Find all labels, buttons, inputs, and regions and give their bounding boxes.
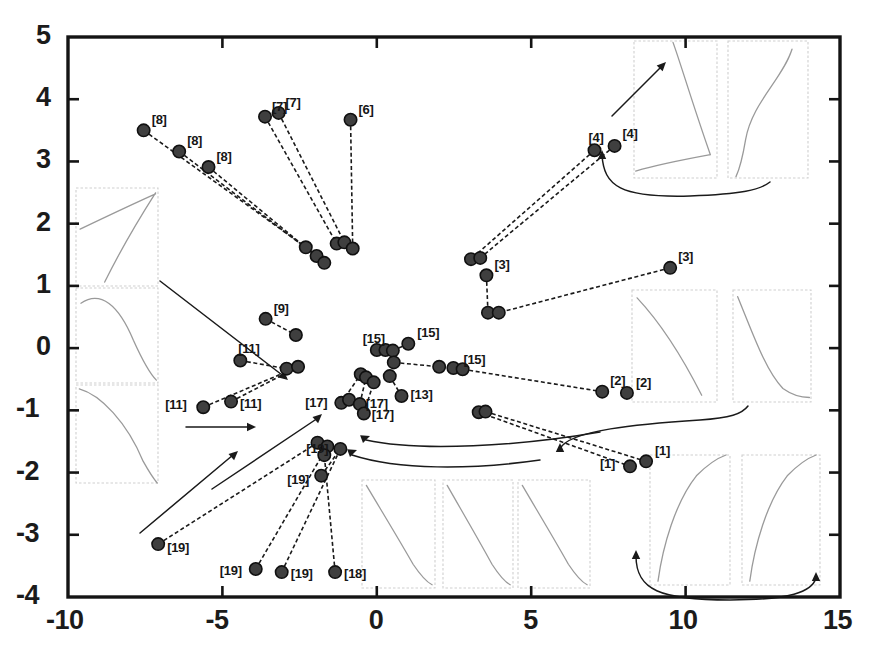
x-axis-tick-label--10: -10	[46, 605, 84, 636]
callout-line-1	[160, 281, 286, 378]
connector-24	[158, 443, 317, 544]
point-label-15: [15]	[463, 352, 485, 367]
data-point	[480, 269, 492, 281]
point-label-2: [2]	[636, 375, 651, 390]
y-axis-tick-label--2: -2	[16, 456, 39, 487]
data-point	[368, 376, 380, 388]
data-point	[173, 145, 185, 157]
point-label-19: [19]	[306, 441, 328, 456]
data-point	[384, 370, 396, 382]
inset-left-middle	[76, 288, 158, 383]
data-point	[588, 144, 600, 156]
data-point	[479, 405, 491, 417]
callout-line-9	[352, 455, 540, 467]
point-label-11: [11]	[165, 397, 186, 412]
data-point	[280, 362, 292, 374]
data-point	[433, 361, 445, 373]
x-axis-tick-label--5: -5	[205, 605, 228, 636]
data-point	[344, 114, 356, 126]
data-point	[315, 469, 327, 481]
x-axis-tick-label-5: 5	[523, 605, 538, 636]
data-point	[387, 344, 399, 356]
callout-arrowhead	[313, 414, 322, 423]
y-axis-tick-label-3: 3	[36, 144, 51, 175]
data-point	[250, 563, 262, 575]
data-point	[300, 241, 312, 253]
x-axis-tick-label-0: 0	[369, 605, 384, 636]
y-axis-tick-label--3: -3	[16, 518, 39, 549]
y-axis-tick-label-0: 0	[36, 331, 51, 362]
y-axis-tick-label-2: 2	[36, 207, 51, 238]
point-label-18: [18]	[344, 566, 366, 581]
data-point	[259, 313, 271, 325]
data-point	[290, 329, 302, 341]
y-axis-tick-label-4: 4	[36, 82, 51, 113]
connector-23	[485, 412, 646, 462]
inset-bottomright-right	[650, 455, 730, 585]
point-label-3: [3]	[678, 249, 693, 264]
data-point	[197, 401, 209, 413]
connector-12	[240, 361, 286, 369]
callout-line-7	[560, 406, 748, 449]
data-point	[402, 338, 414, 350]
connector-7	[471, 150, 595, 259]
x-axis-tick-label-15: 15	[823, 605, 852, 636]
point-label-9: [9]	[274, 301, 289, 316]
point-label-17: [17]	[372, 407, 394, 422]
inset-left-bottom	[76, 385, 158, 483]
data-point	[137, 124, 149, 136]
inset-topright-right	[728, 41, 808, 178]
y-axis-tick-label-5: 5	[36, 20, 51, 51]
point-label-19: [19]	[291, 566, 313, 581]
data-point	[493, 306, 505, 318]
data-point	[624, 460, 636, 472]
point-label-13: [13]	[411, 387, 433, 402]
inset-topright-left	[634, 41, 717, 178]
data-point	[596, 385, 608, 397]
point-label-11: [11]	[240, 396, 261, 411]
inset-left-top	[76, 188, 158, 286]
point-label-7: [7]	[286, 95, 301, 110]
data-point	[234, 354, 246, 366]
point-label-19: [19]	[167, 540, 189, 555]
callout-arrowhead	[247, 423, 256, 431]
point-label-4: [4]	[589, 130, 604, 145]
point-label-11: [11]	[238, 341, 259, 356]
point-label-17: [17]	[305, 395, 327, 410]
data-point	[259, 110, 271, 122]
point-label-2: [2]	[610, 373, 625, 388]
data-point	[318, 257, 330, 269]
data-point	[608, 140, 620, 152]
data-point	[225, 395, 237, 407]
data-point	[347, 242, 359, 254]
scatter-plot-figure: -10-5051015543210-1-2-3-4[8][8][8][7][7]…	[0, 0, 876, 660]
point-label-8: [8]	[152, 112, 167, 127]
callout-arrowhead	[229, 451, 238, 460]
y-axis-tick-label-1: 1	[36, 269, 51, 300]
y-axis-tick-label--4: -4	[16, 580, 39, 611]
point-label-19: [19]	[287, 472, 309, 487]
data-point	[621, 387, 633, 399]
data-point	[474, 252, 486, 264]
data-point	[334, 443, 346, 455]
connector-17	[463, 369, 603, 391]
callout-arrowhead	[360, 435, 370, 443]
point-label-1: [1]	[600, 456, 615, 471]
connector-6	[351, 120, 353, 249]
x-axis-tick-label-10: 10	[669, 605, 698, 636]
data-point	[388, 356, 400, 368]
point-label-1: [1]	[655, 443, 670, 458]
point-label-15: [15]	[417, 325, 439, 340]
data-point	[292, 361, 304, 373]
data-point	[664, 262, 676, 274]
data-point	[329, 566, 341, 578]
data-point	[202, 161, 214, 173]
point-label-3: [3]	[494, 257, 509, 272]
inset-midright-right	[733, 290, 811, 402]
connector-5	[279, 113, 345, 242]
point-label-6: [6]	[359, 102, 374, 117]
point-label-8: [8]	[187, 133, 202, 148]
data-point	[152, 538, 164, 550]
callout-arrowhead	[632, 550, 640, 559]
point-label-19: [19]	[220, 563, 242, 578]
